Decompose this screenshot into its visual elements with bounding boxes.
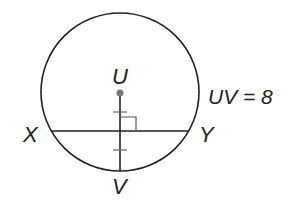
center-point-u (117, 90, 124, 97)
label-u: U (112, 66, 128, 88)
label-v: V (112, 176, 127, 198)
right-angle-marker (120, 117, 136, 131)
measurement-uv: UV = 8 (208, 86, 273, 107)
label-x: X (23, 124, 38, 146)
label-y: Y (199, 124, 214, 146)
